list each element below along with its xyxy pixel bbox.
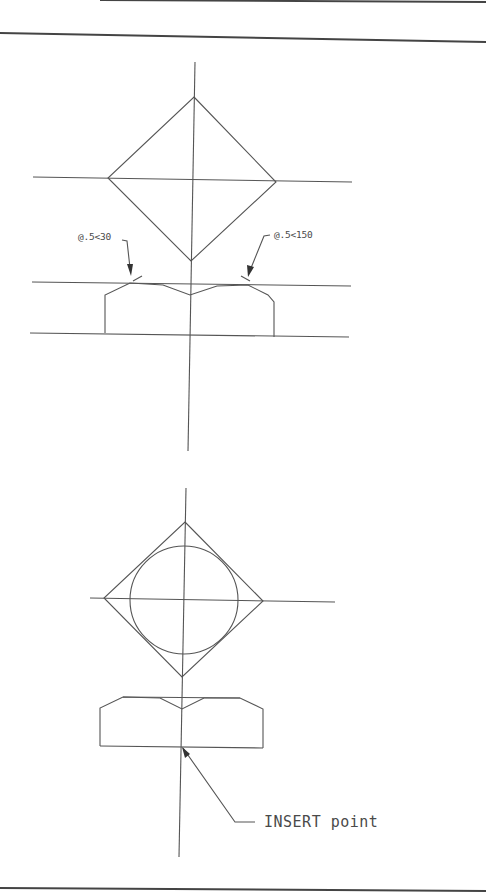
label-insert-point: INSERT point (264, 813, 378, 831)
border-top-rule (0, 33, 486, 42)
insert-leader (183, 748, 255, 822)
bottom-vertical-axis (179, 488, 186, 857)
cad-drawing-canvas: @.5<30 @.5<150 INSERT point (0, 0, 486, 895)
top-tick-right (241, 276, 250, 281)
cad-drawing-sheet: @.5<30 @.5<150 INSERT point (0, 0, 486, 895)
label-polar-30: @.5<30 (78, 231, 112, 242)
leader-right (251, 235, 270, 268)
border-top-edge (100, 0, 486, 2)
top-tick-left (133, 276, 142, 281)
leader-right-arrowhead (247, 265, 254, 277)
bottom-view (90, 488, 335, 857)
border-bottom-rule (0, 888, 486, 891)
leader-left-arrowhead (127, 264, 133, 276)
bottom-horizontal-axis (90, 598, 335, 602)
top-profile (105, 283, 274, 337)
top-vertical-axis (188, 62, 195, 451)
leader-left (122, 240, 130, 268)
label-polar-150: @.5<150 (274, 229, 313, 240)
top-lower-line (30, 333, 349, 337)
top-view (30, 62, 352, 451)
sheet-border (0, 0, 486, 891)
